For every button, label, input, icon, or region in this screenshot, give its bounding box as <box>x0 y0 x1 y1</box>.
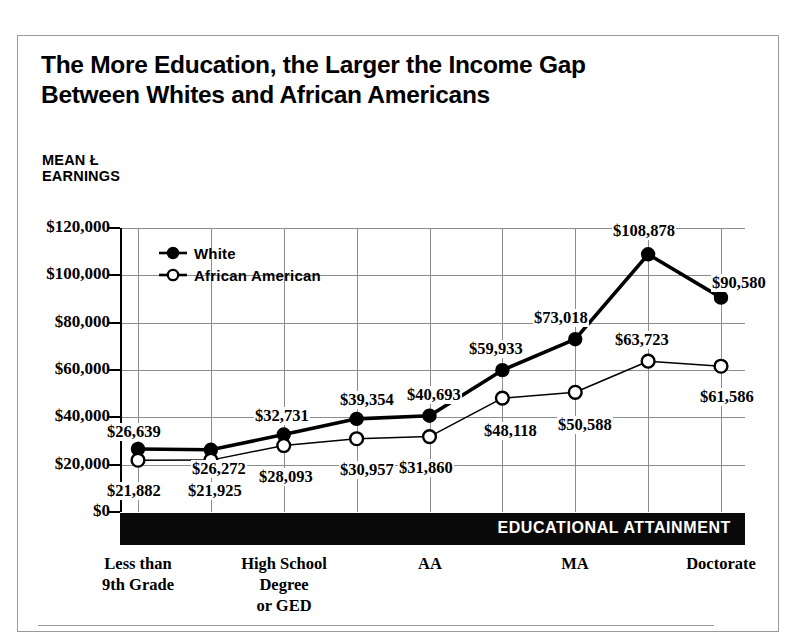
bottom-divider <box>38 625 714 626</box>
y-axis-tick-label: $80,000 <box>55 312 110 332</box>
x-axis-category-line: Degree <box>209 574 359 595</box>
value-label: $26,639 <box>106 423 162 441</box>
value-label: $61,586 <box>699 388 755 406</box>
value-label: $40,693 <box>406 386 462 404</box>
y-axis-tick <box>109 511 120 513</box>
filled-circle-marker-icon <box>158 245 188 261</box>
x-axis-category-label: Less than9th Grade <box>63 553 213 595</box>
data-point-marker <box>132 454 145 467</box>
x-axis-category-line: MA <box>500 553 650 574</box>
educational-attainment-bar: EDUCATIONAL ATTAINMENT <box>120 513 745 545</box>
value-label: $73,018 <box>533 309 589 327</box>
value-label: $90,580 <box>711 274 767 292</box>
chart-legend: White African American <box>158 242 321 286</box>
y-axis-tick <box>109 227 120 229</box>
value-label: $48,118 <box>483 422 538 440</box>
x-axis-category-label: Doctorate <box>646 553 796 574</box>
chart-plot-area: $26,639$26,272$32,731$39,354$40,693$59,9… <box>120 228 745 512</box>
value-label: $32,731 <box>254 407 310 425</box>
data-point-marker <box>642 248 654 260</box>
y-axis-tick <box>109 322 120 324</box>
y-axis-tick <box>109 464 120 466</box>
legend-label-white: White <box>194 245 236 262</box>
y-axis-title: MEAN Ł EARNINGS <box>42 152 120 184</box>
x-axis-category-label: High SchoolDegreeor GED <box>209 553 359 616</box>
data-point-marker <box>496 364 508 376</box>
x-axis-category-label: AA <box>355 553 505 574</box>
x-axis-category-line: AA <box>355 553 505 574</box>
x-axis-category-line: Less than <box>63 553 213 574</box>
value-label: $59,933 <box>468 340 524 358</box>
value-label: $21,882 <box>106 482 162 500</box>
headline-line-2: Between Whites and African Americans <box>41 80 741 110</box>
educational-attainment-label: EDUCATIONAL ATTAINMENT <box>497 519 731 537</box>
data-point-marker <box>642 355 655 368</box>
y-axis-tick <box>109 416 120 418</box>
data-point-marker <box>569 333 581 345</box>
data-point-marker <box>423 409 435 421</box>
y-axis-title-line-2: EARNINGS <box>42 168 120 184</box>
value-label: $30,957 <box>339 461 395 479</box>
open-circle-marker-icon <box>158 267 188 283</box>
headline-line-1: The More Education, the Larger the Incom… <box>41 51 586 78</box>
y-axis-tick-label: $0 <box>93 501 110 521</box>
data-point-marker <box>715 360 728 373</box>
value-label: $108,878 <box>612 222 676 240</box>
value-label: $21,925 <box>187 482 243 500</box>
data-point-marker <box>350 413 362 425</box>
x-axis-category-line: High School <box>209 553 359 574</box>
value-label: $63,723 <box>614 331 670 349</box>
data-point-marker <box>569 386 582 399</box>
data-point-marker <box>715 291 727 303</box>
value-label: $31,860 <box>398 459 454 477</box>
data-point-marker <box>350 432 363 445</box>
data-point-marker <box>423 430 436 443</box>
x-axis-category-line: Doctorate <box>646 553 796 574</box>
legend-label-african-american: African American <box>194 267 321 284</box>
page-title: The More Education, the Larger the Incom… <box>41 50 741 110</box>
y-axis-tick <box>109 274 120 276</box>
data-point-marker <box>496 392 509 405</box>
value-label: $50,588 <box>557 416 613 434</box>
y-axis-tick-label: $40,000 <box>55 406 110 426</box>
legend-item-white: White <box>158 242 321 264</box>
value-label: $28,093 <box>258 468 314 486</box>
y-axis-tick-label: $60,000 <box>55 359 110 379</box>
y-axis-tick-label: $120,000 <box>46 217 110 237</box>
legend-item-african-american: African American <box>158 264 321 286</box>
y-axis-title-line-1: MEAN Ł <box>42 152 99 168</box>
data-point-marker <box>277 439 290 452</box>
value-label: $39,354 <box>339 391 395 409</box>
x-axis-category-label: MA <box>500 553 650 574</box>
y-axis-tick <box>109 369 120 371</box>
x-axis-category-line: 9th Grade <box>63 574 213 595</box>
y-axis-tick-label: $20,000 <box>55 454 110 474</box>
x-axis-category-line: or GED <box>209 595 359 616</box>
y-axis-tick-label: $100,000 <box>46 264 110 284</box>
value-label: $26,272 <box>191 460 247 478</box>
